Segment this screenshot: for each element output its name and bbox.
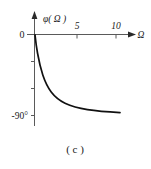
phase-curve [35, 35, 120, 113]
figure-caption: ( c ) [66, 143, 84, 156]
x-tick-label-5: 5 [75, 21, 80, 31]
x-axis-arrow-icon [128, 32, 136, 38]
origin-label: 0 [20, 29, 25, 40]
figure-container: 0 5 10 Ω φ( Ω ) -90° ( c ) [0, 0, 151, 169]
y-min-label: -90° [12, 111, 29, 121]
y-axis-label: φ( Ω ) [43, 14, 66, 25]
x-axis-label: Ω [138, 30, 145, 40]
x-tick-label-10: 10 [111, 21, 121, 31]
phase-response-chart: 0 5 10 Ω φ( Ω ) -90° ( c ) [0, 0, 151, 169]
y-axis-arrow-icon [32, 11, 38, 19]
